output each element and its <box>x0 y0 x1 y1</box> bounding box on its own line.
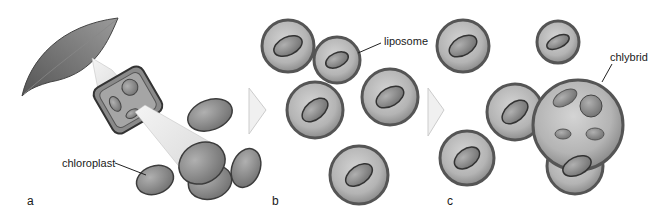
panel-a-label: a <box>27 194 34 208</box>
chlybrid-leader <box>602 64 612 82</box>
chlybrid-label: chlybrid <box>610 51 648 63</box>
liposomes-b <box>262 20 418 204</box>
chloroplast-label: chloroplast <box>62 157 115 169</box>
panel-b-label: b <box>272 194 279 208</box>
panel-c-label: c <box>447 194 453 208</box>
diagram: chloroplast liposome chlybrid a b c <box>0 0 666 221</box>
arrow-b-to-c <box>428 88 444 136</box>
chlybrid <box>533 80 623 194</box>
liposome-label: liposome <box>384 35 428 47</box>
arrow-a-to-b <box>249 88 266 134</box>
liposome-leader <box>358 43 381 53</box>
chloroplast-leader <box>115 163 146 175</box>
